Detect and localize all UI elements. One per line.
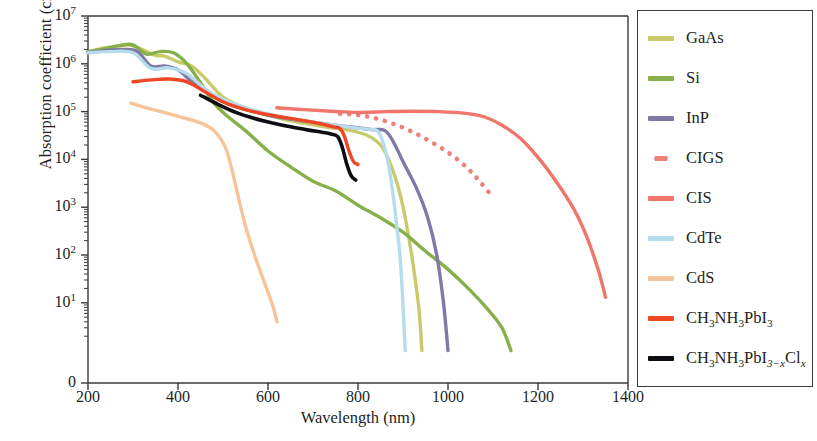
legend-label: InP — [686, 108, 709, 128]
legend-item-cigs[interactable]: CIGS — [648, 145, 808, 171]
legend-label: CdS — [686, 268, 714, 288]
legend-item-ch3nh3pbi3[interactable]: CH3NH3PbI3 — [648, 305, 808, 331]
curve-cis — [277, 108, 606, 298]
legend-swatch-icon — [648, 116, 674, 121]
curve-cds — [131, 103, 277, 322]
legend-label: CH3NH3PbI3−xClx — [686, 348, 806, 368]
legend-swatch-icon — [648, 196, 674, 201]
legend-item-cdte[interactable]: CdTe — [648, 225, 808, 251]
legend-label: Si — [686, 68, 700, 88]
legend-item-gaas[interactable]: GaAs — [648, 25, 808, 51]
data-curves — [88, 44, 606, 350]
legend-item-si[interactable]: Si — [648, 65, 808, 91]
legend-label: GaAs — [686, 28, 724, 48]
curve-si — [88, 44, 511, 350]
legend-swatch-icon — [648, 356, 674, 361]
legend-item-cds[interactable]: CdS — [648, 265, 808, 291]
legend-swatch-icon — [648, 156, 674, 161]
legend-item-inp[interactable]: InP — [648, 105, 808, 131]
legend-label: CdTe — [686, 228, 722, 248]
curve-cdte — [88, 51, 405, 350]
legend-item-ch3nh3pbi3-xclx[interactable]: CH3NH3PbI3−xClx — [648, 345, 808, 371]
curve-gaas — [88, 45, 422, 351]
legend-swatch-icon — [648, 36, 674, 41]
legend-item-cis[interactable]: CIS — [648, 185, 808, 211]
legend-label: CIGS — [686, 148, 724, 168]
legend-swatch-icon — [648, 276, 674, 281]
legend-swatch-icon — [648, 316, 674, 321]
curve-ch3nh3pbi3 — [133, 79, 358, 165]
legend-label: CH3NH3PbI3 — [686, 308, 773, 328]
legend-label: CIS — [686, 188, 712, 208]
plot-frame — [88, 16, 628, 383]
legend-swatch-icon — [648, 76, 674, 81]
legend-swatch-icon — [648, 236, 674, 241]
legend-box: GaAsSiInPCIGSCISCdTeCdSCH3NH3PbI3CH3NH3P… — [637, 10, 813, 387]
